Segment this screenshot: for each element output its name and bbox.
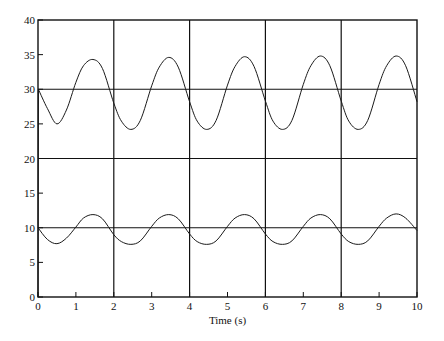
x-tick-label: 10 [412,300,424,312]
y-tick-label: 15 [24,187,36,199]
series-line-lower [38,214,417,244]
series-line-upper [38,56,417,297]
y-tick-label: 35 [24,49,36,61]
x-tick-label: 0 [35,300,41,312]
x-axis: 012345678910 [35,292,423,312]
x-tick-label: 8 [338,300,344,312]
x-tick-label: 9 [376,300,382,312]
y-tick-label: 40 [24,14,36,26]
line-chart: 0510152025303540 012345678910 Time (s) [0,0,444,341]
series-lines [38,56,417,297]
x-tick-label: 1 [73,300,79,312]
x-tick-label: 7 [301,300,307,312]
x-tick-label: 5 [225,300,231,312]
grid-lines [38,20,417,297]
x-tick-label: 3 [149,300,155,312]
y-tick-label: 5 [30,256,36,268]
x-tick-label: 4 [187,300,193,312]
y-tick-label: 25 [24,118,36,130]
y-tick-label: 30 [24,83,36,95]
y-axis: 0510152025303540 [24,14,43,303]
x-axis-title: Time (s) [209,314,247,327]
x-tick-label: 6 [263,300,269,312]
x-tick-label: 2 [111,300,117,312]
y-tick-label: 10 [24,222,36,234]
y-tick-label: 20 [24,153,36,165]
